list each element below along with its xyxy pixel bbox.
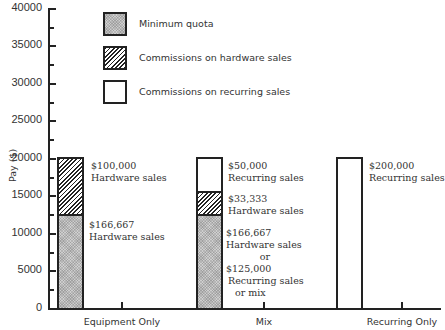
y-tick-label: 30000 [0, 76, 42, 88]
y-tick-label: 0 [0, 301, 42, 313]
x-tick [263, 302, 265, 308]
legend-swatch-minimum-quota [103, 12, 127, 36]
legend-label: Minimum quota [139, 18, 213, 29]
legend-swatch-recurring-commissions [103, 80, 127, 104]
annotation-line: $200,000 [369, 160, 445, 172]
annotation-equipment-upper: $100,000 Hardware sales [91, 160, 167, 184]
x-label-recurring-only: Recurring Only [367, 316, 437, 327]
y-tick-label: 10000 [0, 226, 42, 238]
x-label-equipment-only: Equipment Only [84, 316, 160, 327]
annotation-line: $33,333 [228, 193, 304, 205]
y-axis [48, 8, 50, 309]
annotation-line: $100,000 [91, 160, 167, 172]
annotation-line: Recurring sales [228, 172, 304, 184]
legend-label: Commissions on recurring sales [139, 86, 290, 97]
annotation-mix-upper: $50,000 Recurring sales [228, 160, 304, 184]
bar-segment-hardware-commissions [196, 191, 223, 216]
y-tick-label: 25000 [0, 113, 42, 125]
x-tick [401, 302, 403, 308]
x-tick [121, 302, 123, 308]
x-label-mix: Mix [256, 316, 272, 327]
annotation-line: Hardware sales [89, 231, 165, 243]
annotation-line: $166,667 [226, 227, 304, 239]
annotation-recurring-upper: $200,000 Recurring sales [369, 160, 445, 184]
x-axis [48, 308, 441, 310]
annotation-line: Hardware sales [228, 205, 304, 217]
annotation-line: or [226, 251, 304, 263]
bar-segment-minimum-quota [57, 214, 84, 310]
y-tick-label: 5000 [0, 263, 42, 275]
annotation-equipment-lower: $166,667 Hardware sales [89, 219, 165, 243]
annotation-line: $166,667 [89, 219, 165, 231]
y-tick-label: 15000 [0, 188, 42, 200]
y-tick-label: 35000 [0, 38, 42, 50]
annotation-mix-middle: $33,333 Hardware sales [228, 193, 304, 217]
bar-segment-recurring-commissions [196, 157, 223, 193]
y-tick-label: 20000 [0, 151, 42, 163]
annotation-mix-lower: $166,667 Hardware sales or $125,000 Recu… [226, 227, 304, 299]
annotation-line: or mix [226, 287, 304, 299]
annotation-line: $125,000 [226, 263, 304, 275]
bar-segment-minimum-quota [196, 214, 223, 310]
legend-swatch-hardware-commissions [103, 46, 127, 70]
bar-segment-hardware-commissions [57, 157, 84, 216]
annotation-line: $50,000 [228, 160, 304, 172]
bar-segment-recurring-commissions [336, 157, 363, 310]
annotation-line: Hardware sales [91, 172, 167, 184]
y-tick-label: 40000 [0, 1, 42, 13]
annotation-line: Hardware sales [226, 239, 304, 251]
legend-label: Commissions on hardware sales [139, 52, 292, 63]
annotation-line: Recurring sales [369, 172, 445, 184]
annotation-line: Recurring sales [226, 275, 304, 287]
